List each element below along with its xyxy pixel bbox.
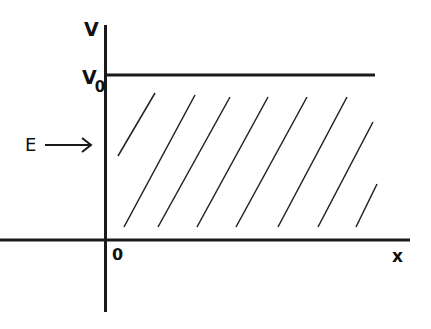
hatch-line: [158, 97, 230, 227]
hatch-line: [118, 93, 155, 156]
hatched-region: [118, 93, 377, 227]
hatch-line: [124, 95, 195, 227]
v0-label-subscript: 0: [95, 78, 105, 96]
hatch-line: [236, 97, 307, 227]
energy-label: E: [25, 136, 36, 154]
y-axis-label: V: [84, 20, 99, 39]
hatch-line: [318, 122, 373, 227]
origin-label: 0: [112, 247, 123, 263]
x-axis-label: x: [392, 248, 403, 265]
hatch-line: [197, 97, 268, 227]
hatch-line: [278, 97, 347, 227]
energy-arrow: [45, 138, 91, 152]
hatch-line: [356, 184, 377, 227]
v0-label: V0: [82, 68, 107, 87]
potential-diagram: [0, 0, 431, 329]
